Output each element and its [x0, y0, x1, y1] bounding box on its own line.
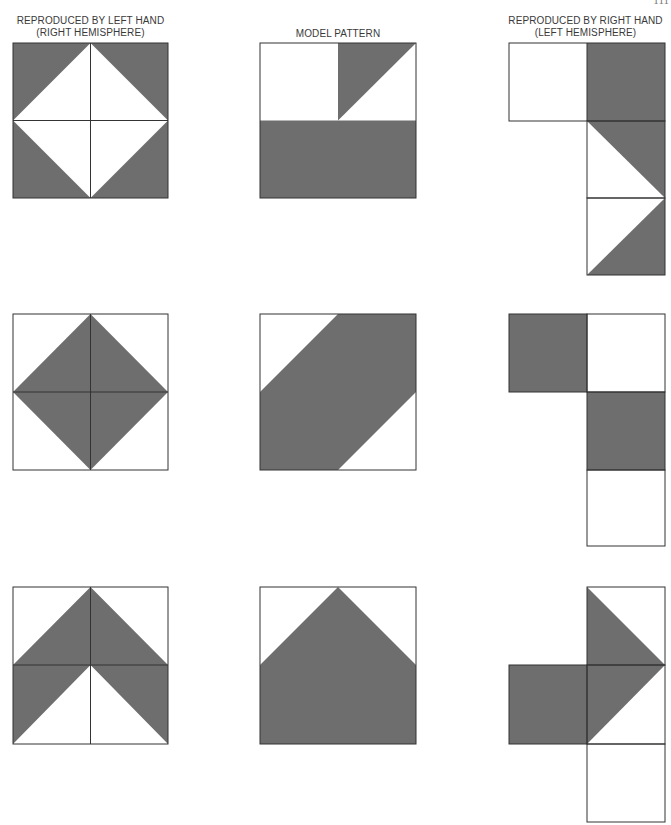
- row1-model-pattern: [260, 43, 416, 198]
- row2-model-pattern: [260, 314, 416, 470]
- figure-canvas: [0, 0, 671, 825]
- row3-model-pattern: [260, 587, 416, 744]
- row1-right-hand-pattern: [587, 43, 665, 275]
